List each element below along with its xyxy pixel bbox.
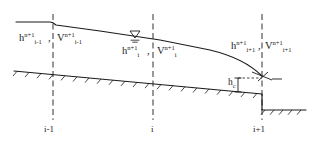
node-subscript: i-1 <box>75 38 82 45</box>
label-depth-i: hn+1i <box>122 46 139 57</box>
critical-depth-dimension <box>235 78 263 92</box>
label-velocity-i-plus-1: Vn+1i+1 <box>265 41 292 52</box>
water-surface-marker-brink-icon <box>252 72 282 81</box>
time-superscript: n+1 <box>236 39 246 46</box>
velocity-symbol: V <box>57 32 65 43</box>
critical-subscript: c <box>233 82 236 89</box>
hydraulic-drop-structure-figure: hn+1i-1 , Vn+1i-1 hn+1i , Vn+1i hn+1i+1 … <box>0 0 314 143</box>
channel-bed-upper <box>13 71 262 98</box>
node-subscript: i <box>137 51 139 58</box>
label-depth-i-minus-1: hn+1i-1 <box>19 33 42 44</box>
node-subscript: i <box>175 51 177 58</box>
node-subscript: i-1 <box>34 38 41 45</box>
node-subscript: i+1 <box>283 46 292 53</box>
time-superscript: n+1 <box>165 44 175 51</box>
label-depth-i-plus-1: hn+1i+1 <box>231 41 255 52</box>
time-superscript: n+1 <box>127 44 137 51</box>
node-gridlines <box>53 14 262 120</box>
velocity-symbol: V <box>265 40 273 51</box>
label-separator-right: , <box>258 41 261 52</box>
label-velocity-i-minus-1: Vn+1i-1 <box>57 33 82 44</box>
label-separator-left: , <box>48 33 51 44</box>
channel-bed-lower <box>261 110 306 115</box>
label-velocity-i: Vn+1i <box>157 46 177 57</box>
ground-hatch-lower <box>261 110 301 115</box>
ground-hatch-upper <box>13 71 257 98</box>
label-separator-mid: , <box>147 46 150 57</box>
node-subscript: i+1 <box>246 46 255 53</box>
time-superscript: n+1 <box>65 31 75 38</box>
time-superscript: n+1 <box>24 31 34 38</box>
figure-linework <box>0 0 314 143</box>
label-critical-depth: hc <box>228 78 236 88</box>
time-superscript: n+1 <box>273 39 283 46</box>
node-label-i-minus-1: i-1 <box>44 125 54 134</box>
node-label-i: i <box>151 125 154 134</box>
velocity-symbol: V <box>157 45 165 56</box>
node-label-i-plus-1: i+1 <box>253 125 265 134</box>
